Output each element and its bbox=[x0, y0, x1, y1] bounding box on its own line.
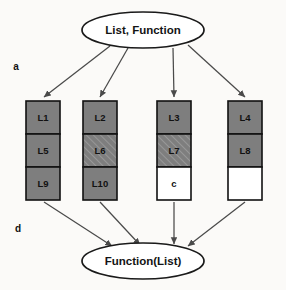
cell-label-L9: L9 bbox=[37, 178, 48, 189]
edge-top-to-column-2 bbox=[100, 48, 128, 97]
cell-label-L5: L5 bbox=[37, 145, 49, 156]
edges-from-top-node bbox=[44, 45, 245, 97]
cell-label-L7: L7 bbox=[168, 145, 179, 156]
side-label-d: d bbox=[15, 223, 21, 234]
diagram-canvas: List, Function Function(List) L1 L5 L9 L… bbox=[0, 0, 286, 290]
cell-label-L2: L2 bbox=[94, 112, 105, 123]
edge-column-4-to-bottom bbox=[188, 202, 245, 246]
edge-column-1-to-bottom bbox=[44, 202, 112, 246]
cell-label-L6: L6 bbox=[94, 145, 105, 156]
column-1[interactable]: L1 L5 L9 bbox=[26, 101, 60, 200]
cell-label-L4: L4 bbox=[239, 112, 251, 123]
edge-column-2-to-bottom bbox=[100, 202, 140, 245]
cell-label-c: c bbox=[171, 178, 176, 189]
node-bottom[interactable]: Function(List) bbox=[82, 243, 204, 279]
column-3[interactable]: L3 L7 c bbox=[157, 101, 191, 200]
column-2[interactable]: L2 L6 L10 bbox=[83, 101, 117, 200]
node-top[interactable]: List, Function bbox=[82, 12, 204, 48]
cell-label-L1: L1 bbox=[37, 112, 49, 123]
column-4[interactable]: L4 L8 bbox=[228, 101, 262, 200]
cell-label-L8: L8 bbox=[239, 145, 250, 156]
bottom-node-label: Function(List) bbox=[105, 255, 182, 267]
side-label-a: a bbox=[13, 61, 19, 72]
cell-label-L10: L10 bbox=[92, 178, 108, 189]
side-labels: a d bbox=[13, 61, 21, 234]
edge-top-to-column-1 bbox=[44, 46, 110, 97]
cell-column-4-empty[interactable] bbox=[228, 167, 262, 200]
cell-label-L3: L3 bbox=[168, 112, 179, 123]
edges-to-bottom-node bbox=[44, 202, 245, 246]
top-node-label: List, Function bbox=[105, 24, 180, 36]
edge-top-to-column-4 bbox=[188, 45, 245, 97]
edge-top-to-column-3 bbox=[173, 48, 174, 97]
